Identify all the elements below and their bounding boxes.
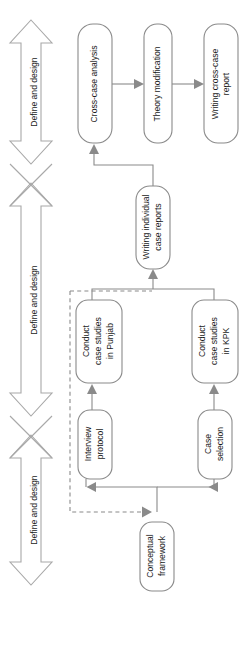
node-interview-protocol[interactable]: Interview protocol <box>78 410 112 479</box>
phase-arrow-1-label: Define and design <box>29 57 39 126</box>
node-conduct-case-studies-punjab[interactable]: Conduct case studies in Punjab <box>76 300 122 383</box>
connector-cross-case-to-theory <box>112 79 144 89</box>
node-writing-individual-case-reports[interactable]: Writing individual case reports <box>136 186 170 269</box>
connector-conducts-to-writing-individual <box>92 269 214 300</box>
node-conduct-kpk-label-0: Conduct <box>197 324 207 357</box>
arrowhead-to-writing-individual <box>148 269 158 279</box>
node-cross-case-analysis-label-0: Cross-case analysis <box>89 46 99 123</box>
arrowhead-dashed <box>142 507 152 518</box>
arrowhead-to-interview-protocol <box>87 482 97 492</box>
arrowhead-to-conduct-punjab <box>87 384 97 394</box>
phase-arrow-group-1: Define and design <box>10 20 52 164</box>
connector-case-selection-to-kpk <box>209 384 219 410</box>
arrowhead-to-cross-case-report <box>194 79 204 89</box>
node-conceptual-framework[interactable]: Conceptual framework <box>140 522 174 591</box>
node-writing-individual-case-reports-label-1: case reports <box>153 203 163 250</box>
node-case-selection-label-1: selection <box>215 427 225 461</box>
arrowhead-to-theory-modification <box>134 79 144 89</box>
arrowhead-to-cross-case <box>89 144 99 154</box>
node-case-selection[interactable]: Case selection <box>198 410 232 479</box>
phase-arrow-3-label: Define and design <box>29 475 39 544</box>
phase-arrow-group-3: Define and design <box>10 435 52 585</box>
node-cross-case-analysis[interactable]: Cross-case analysis <box>78 24 112 143</box>
node-conceptual-framework-label-0: Conceptual <box>145 534 155 578</box>
node-conduct-case-studies-kpk[interactable]: Conduct case studies in KPK <box>192 300 238 383</box>
node-writing-individual-case-reports-label-0: Writing individual <box>141 195 151 260</box>
connector-conceptual-branch <box>86 479 218 512</box>
node-conduct-kpk-label-2: in KPK <box>221 328 231 355</box>
node-case-selection-label-0: Case <box>203 434 213 454</box>
node-writing-cross-case-report-label-1: report <box>221 72 231 95</box>
node-conduct-punjab-label-0: Conduct <box>81 324 91 357</box>
connector-writing-individual-to-cross-case <box>89 144 153 186</box>
flowchart-figure: Define and design Define and design Defi… <box>0 0 244 654</box>
arrowhead-to-conduct-kpk <box>209 384 219 394</box>
phase-arrow-2-label: Define and design <box>29 265 39 334</box>
flowchart-svg: Define and design Define and design Defi… <box>0 0 244 654</box>
node-interview-protocol-label-0: Interview <box>83 426 93 461</box>
node-writing-cross-case-report[interactable]: Writing cross-case report <box>204 24 238 143</box>
node-conduct-punjab-label-1: case studies <box>93 317 103 365</box>
arrowhead-to-case-selection <box>209 482 219 492</box>
node-conduct-punjab-label-2: in Punjab <box>105 323 115 359</box>
connector-theory-to-cross-case-report <box>172 79 204 89</box>
node-writing-cross-case-report-label-0: Writing cross-case <box>210 49 220 120</box>
node-conceptual-framework-label-1: framework <box>157 535 167 576</box>
connector-interview-to-punjab <box>87 384 97 410</box>
phase-arrow-group-2: Define and design <box>10 183 52 416</box>
node-theory-modification[interactable]: Theory modification <box>144 24 172 143</box>
node-conduct-kpk-label-1: case studies <box>209 317 219 365</box>
node-interview-protocol-label-1: protocol <box>95 429 105 460</box>
node-theory-modification-label-0: Theory modification <box>152 46 162 121</box>
